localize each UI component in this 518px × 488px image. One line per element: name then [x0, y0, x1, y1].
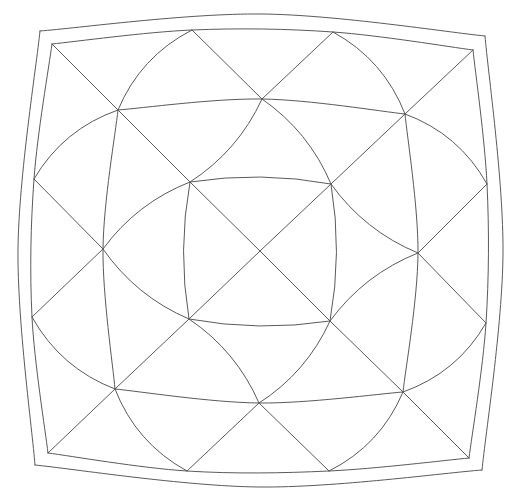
- curve-line-16: [118, 30, 192, 110]
- curve-line-2: [35, 465, 482, 487]
- straight-line-2: [192, 30, 262, 99]
- curve-line-21: [32, 317, 115, 389]
- curve-line-20: [34, 110, 118, 179]
- curve-line-24: [262, 99, 331, 184]
- curve-line-22: [405, 114, 487, 184]
- curve-line-28: [189, 319, 259, 403]
- straight-line-9: [418, 253, 486, 323]
- straight-line-3: [262, 32, 333, 99]
- curve-line-3: [18, 31, 40, 465]
- curve-line-25: [103, 182, 190, 249]
- curve-line-0: [40, 14, 485, 36]
- curve-line-18: [115, 389, 187, 471]
- straight-line-4: [187, 403, 259, 471]
- curve-line-30: [331, 184, 418, 253]
- curve-line-7: [31, 44, 52, 453]
- straight-line-6: [34, 179, 103, 249]
- straight-diagonal-lines: [32, 30, 487, 471]
- curve-line-15: [183, 182, 190, 319]
- straight-line-7: [32, 249, 103, 317]
- curve-line-6: [48, 453, 469, 473]
- straight-line-5: [259, 403, 329, 471]
- curve-line-12: [190, 177, 331, 184]
- curve-line-1: [482, 36, 503, 470]
- lattice-diagram: [0, 0, 518, 488]
- curve-line-27: [259, 321, 330, 403]
- curve-line-23: [403, 323, 486, 392]
- curve-line-29: [190, 99, 262, 182]
- curve-line-11: [103, 110, 118, 389]
- curve-line-26: [103, 249, 189, 319]
- curve-line-9: [403, 114, 418, 392]
- curve-line-4: [52, 29, 473, 50]
- curve-line-17: [333, 32, 405, 114]
- curve-line-19: [329, 392, 403, 471]
- curve-line-5: [469, 50, 488, 458]
- curve-line-13: [330, 184, 337, 321]
- curve-line-31: [330, 253, 418, 321]
- curve-line-14: [189, 319, 330, 326]
- curve-line-10: [115, 389, 403, 403]
- straight-line-8: [418, 184, 487, 253]
